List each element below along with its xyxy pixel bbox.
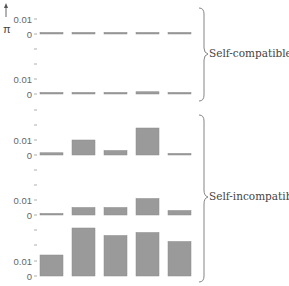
y-tick-label: 0 [27,271,32,282]
y-tick-label: 0 [27,210,32,221]
y-axis-arrow-icon [4,3,8,17]
bar [168,211,191,216]
y-tick-label: 0 [27,29,32,40]
bar [72,32,95,34]
bar [72,92,95,94]
bar [72,140,95,155]
bar [136,233,159,277]
panel-4: 00.01 [14,195,192,221]
panels: 00.0100.0100.0100.0100.01 [14,14,192,282]
y-tick-label: 0.01 [14,74,33,85]
brace-self-compatible-icon [199,8,208,101]
y-tick-label: 0.01 [14,195,33,206]
bar [136,128,159,155]
y-tick-label: 0.01 [14,135,33,146]
bar [40,153,63,155]
bar [168,92,191,94]
panel-3: 00.01 [14,128,192,161]
bar [136,199,159,216]
bar [72,208,95,216]
bar [40,32,63,34]
bar [104,92,127,94]
bar [104,236,127,277]
bar [104,32,127,34]
bar [40,213,63,215]
bar [40,255,63,276]
bar [136,92,159,94]
chart: π 00.0100.0100.0100.0100.01 Self-compati… [0,0,289,286]
y-tick-label: 0.01 [14,256,33,267]
panel-5: 00.01 [14,228,192,282]
bar [168,153,191,155]
bar [72,228,95,276]
group-label-self-incompatible: Self-incompatible [209,190,289,202]
brace-self-incompatible-icon [199,115,208,282]
bar [104,208,127,216]
bar [168,32,191,34]
y-axis-label: π [3,23,11,35]
panel-1: 00.01 [14,14,192,40]
bar [104,151,127,156]
group-label-self-compatible: Self-compatible [209,47,289,59]
y-tick-label: 0 [27,150,32,161]
y-tick-label: 0.01 [14,14,33,25]
bar [40,92,63,94]
bar [136,32,159,34]
panel-2: 00.01 [14,74,192,100]
y-tick-label: 0 [27,89,32,100]
bar [168,242,191,277]
